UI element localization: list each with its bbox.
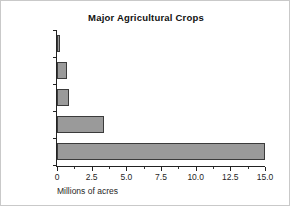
x-tick-minor bbox=[74, 167, 75, 169]
chart-figure: Major Agricultural Crops sugar beetcotto… bbox=[0, 0, 290, 206]
bar-rect bbox=[57, 89, 69, 106]
y-tick bbox=[53, 30, 57, 31]
x-tick-label: 5.0 bbox=[111, 172, 141, 182]
x-tick-label: 12.5 bbox=[215, 172, 245, 182]
bar-wheat bbox=[57, 143, 265, 160]
x-tick bbox=[265, 167, 266, 171]
chart-title: Major Agricultural Crops bbox=[1, 12, 290, 23]
bar-rect bbox=[57, 116, 104, 133]
x-tick bbox=[92, 167, 93, 171]
x-tick-label: 15.0 bbox=[250, 172, 280, 182]
x-tick-label: 7.5 bbox=[146, 172, 176, 182]
y-tick bbox=[53, 165, 57, 166]
bar-rice bbox=[57, 89, 69, 106]
x-tick bbox=[57, 167, 58, 171]
x-tick-label: 10.0 bbox=[181, 172, 211, 182]
x-tick bbox=[126, 167, 127, 171]
x-tick-minor bbox=[109, 167, 110, 169]
bar-sugar-beet bbox=[57, 35, 60, 52]
x-tick-label: 2.5 bbox=[77, 172, 107, 182]
x-tick-minor bbox=[144, 167, 145, 169]
y-tick bbox=[53, 138, 57, 139]
bar-rect bbox=[57, 62, 67, 79]
x-axis-label: Millions of acres bbox=[57, 186, 118, 196]
bar-barley bbox=[57, 116, 104, 133]
bar-rect bbox=[57, 143, 265, 160]
y-tick bbox=[53, 111, 57, 112]
y-tick bbox=[53, 57, 57, 58]
x-tick-minor bbox=[178, 167, 179, 169]
x-tick bbox=[161, 167, 162, 171]
x-tick bbox=[230, 167, 231, 171]
y-tick bbox=[53, 84, 57, 85]
bar-rect bbox=[57, 35, 60, 52]
x-tick-minor bbox=[213, 167, 214, 169]
bar-cotton bbox=[57, 62, 67, 79]
x-tick-minor bbox=[248, 167, 249, 169]
x-tick-label: 0 bbox=[42, 172, 72, 182]
x-tick bbox=[196, 167, 197, 171]
